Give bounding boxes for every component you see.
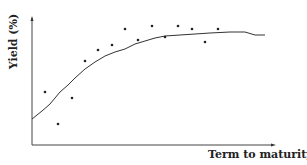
data-point	[57, 123, 60, 126]
data-point	[204, 41, 207, 44]
data-point	[217, 28, 220, 31]
data-points	[44, 25, 220, 126]
data-point	[111, 44, 114, 47]
data-point	[164, 36, 167, 39]
data-point	[191, 28, 194, 31]
data-point	[71, 97, 74, 100]
data-point	[177, 25, 180, 28]
y-axis-label: Yield (%)	[7, 14, 20, 69]
data-point	[124, 28, 127, 31]
yield-curve	[32, 32, 265, 119]
data-point	[137, 39, 140, 42]
x-axis-label: Term to maturity	[208, 148, 307, 161]
data-point	[84, 60, 87, 63]
data-point	[97, 49, 100, 52]
data-point	[151, 25, 154, 28]
chart-canvas	[0, 0, 307, 165]
data-point	[44, 91, 47, 94]
y-axis-arrow-icon	[31, 16, 34, 21]
x-axis-arrow-icon	[271, 144, 276, 147]
